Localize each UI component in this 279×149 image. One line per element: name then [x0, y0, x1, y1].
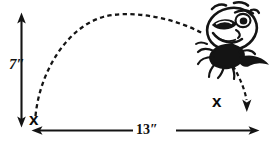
flea-eye-right-pupil — [240, 17, 248, 24]
takeoff-x-marker: x — [29, 111, 38, 128]
trajectory-dashed-arc — [36, 14, 203, 116]
flea-antenna-right — [234, 2, 248, 5]
flea-character — [196, 2, 266, 79]
descent-dashed-line — [233, 66, 247, 100]
descent-arrow-head — [242, 100, 251, 113]
distance-label: 13″ — [136, 123, 158, 137]
diagram-canvas: 7″ 13″ x x — [0, 0, 279, 149]
descent-path — [233, 66, 251, 112]
flea-eye-right — [236, 14, 251, 27]
landing-x-marker: x — [212, 93, 221, 110]
flea-arm-flick — [196, 43, 207, 45]
height-label: 7″ — [9, 57, 25, 72]
flea-leg-front-lower — [209, 63, 216, 77]
flea-hind-leg — [240, 57, 266, 66]
trajectory-path — [36, 14, 203, 116]
